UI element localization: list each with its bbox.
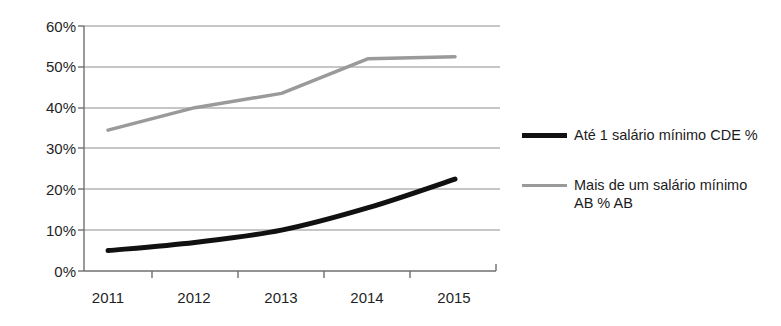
legend-label-ab: Mais de um salário mínimo AB % AB	[574, 176, 778, 212]
legend-swatch-cde-icon	[522, 133, 567, 138]
y-axis-ticks	[78, 26, 84, 271]
x-axis-ticks	[152, 271, 410, 278]
x-axis-tick-2012: 2012	[159, 290, 229, 305]
x-axis-tick-2014: 2014	[332, 290, 402, 305]
legend-item-ab: Mais de um salário mínimo AB % AB	[516, 176, 778, 212]
x-axis-tick-2011: 2011	[73, 290, 143, 305]
series-line-ab	[108, 57, 455, 131]
series-line-cde	[108, 179, 455, 250]
chart-legend: Até 1 salário mínimo CDE % Mais de um sa…	[516, 126, 778, 232]
legend-swatch-ab-icon	[522, 184, 567, 187]
line-chart: 60% 50% 40% 30% 20% 10% 0%	[0, 0, 781, 326]
legend-label-cde: Até 1 salário mínimo CDE %	[574, 126, 778, 144]
x-axis-tick-2013: 2013	[246, 290, 316, 305]
legend-item-cde: Até 1 salário mínimo CDE %	[516, 126, 778, 156]
x-axis-tick-2015: 2015	[419, 290, 489, 305]
